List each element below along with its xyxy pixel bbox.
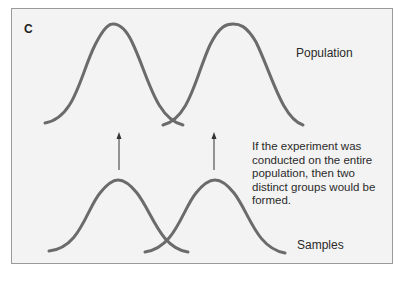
explanation-note: If the experiment was conducted on the e… <box>252 140 392 208</box>
population-curve-left <box>45 24 183 125</box>
arrow-up-icon <box>117 132 122 170</box>
population-label: Population <box>296 46 353 60</box>
panel-label: C <box>24 22 33 36</box>
samples-label: Samples <box>297 238 344 252</box>
population-curve-right <box>163 24 303 125</box>
arrow-up-icon <box>212 132 217 170</box>
